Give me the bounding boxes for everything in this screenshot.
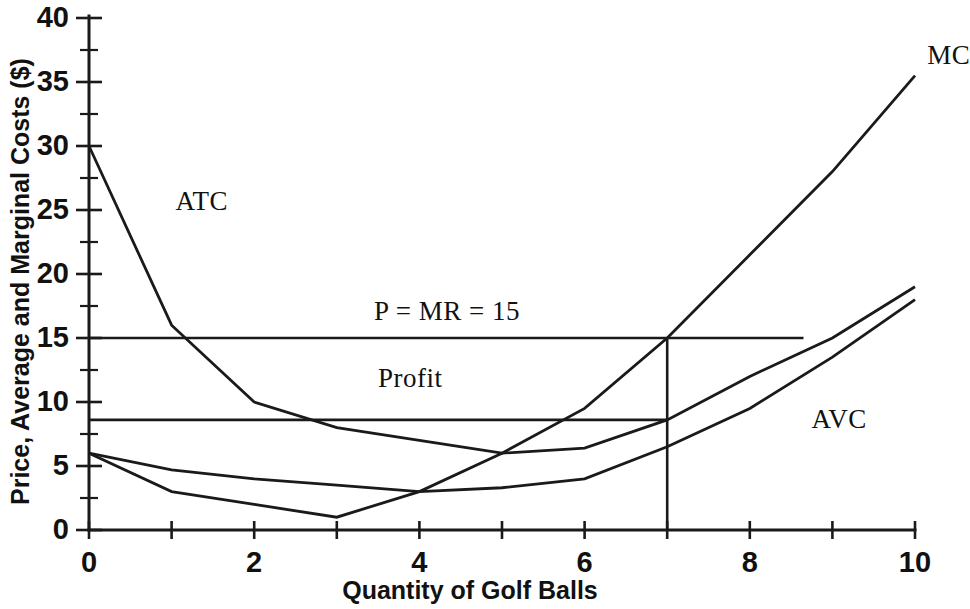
x-tick-label: 10: [875, 548, 955, 577]
series-label-avc: AVC: [812, 406, 867, 433]
x-tick-label: 2: [214, 548, 294, 577]
y-tick-label: 30: [37, 131, 69, 160]
y-tick-label: 10: [37, 387, 69, 416]
annotation-label-price-mr-line: P = MR = 15: [374, 298, 520, 325]
x-tick-label: 6: [545, 548, 625, 577]
y-tick-label: 15: [37, 323, 69, 352]
x-axis-title: Quantity of Golf Balls: [0, 578, 940, 603]
y-tick-label: 5: [53, 451, 69, 480]
annotation-label-profit-region: Profit: [378, 365, 443, 392]
y-tick-label: 25: [37, 195, 69, 224]
y-tick-label: 40: [37, 3, 69, 32]
y-tick-label: 20: [37, 259, 69, 288]
x-tick-label: 8: [710, 548, 790, 577]
y-axis-title: Price, Average and Marginal Costs ($): [8, 58, 33, 505]
x-tick-label: 4: [379, 548, 459, 577]
chart-ticks: [76, 18, 915, 539]
series-label-atc: ATC: [176, 188, 229, 215]
series-line-avc: [89, 300, 915, 492]
y-tick-label: 35: [37, 67, 69, 96]
series-label-mc: MC: [927, 42, 970, 69]
y-tick-label: 0: [53, 515, 69, 544]
x-tick-label: 0: [49, 548, 129, 577]
